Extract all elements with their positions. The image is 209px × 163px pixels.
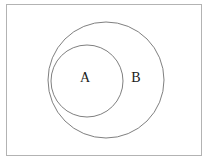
set-label-b: B: [131, 70, 140, 85]
set-circle-b: [48, 22, 164, 138]
universe-rectangle: [7, 5, 202, 156]
venn-diagram-canvas: B A: [0, 0, 209, 163]
venn-diagram-figure: B A: [0, 0, 209, 163]
set-label-a: A: [80, 70, 91, 85]
